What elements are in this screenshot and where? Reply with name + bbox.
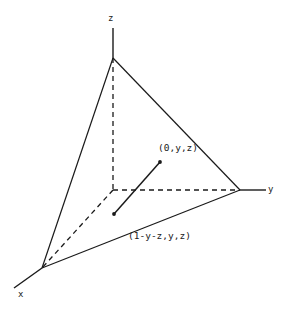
- point-label-lower: (1-y-z,y,z): [128, 231, 191, 241]
- diagram-canvas: [0, 0, 290, 312]
- point-label-upper: (0,y,z): [158, 143, 198, 153]
- edge-x-to-y: [42, 190, 240, 268]
- segment-endpoint-upper-dot: [158, 160, 162, 164]
- edge-z-to-y: [113, 58, 240, 190]
- edge-z-to-x: [42, 58, 113, 268]
- interior-segment: [114, 162, 160, 214]
- x-axis-label: x: [18, 290, 23, 299]
- simplex-diagram: z y x (0,y,z) (1-y-z,y,z): [0, 0, 290, 312]
- segment-endpoint-lower-dot: [112, 212, 116, 216]
- x-axis-line: [14, 268, 42, 288]
- z-axis-label: z: [108, 14, 113, 23]
- edge-origin-to-x: [42, 190, 113, 268]
- y-axis-label: y: [268, 185, 273, 194]
